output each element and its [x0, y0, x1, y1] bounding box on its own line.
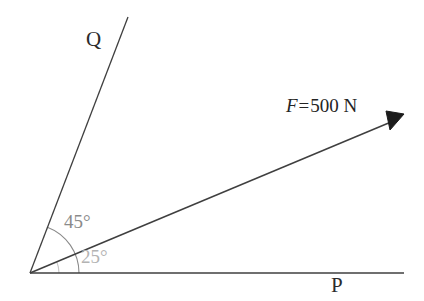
angle-label-45: 45°: [64, 212, 91, 231]
force-vector-diagram: Q P F=500 N 45° 25°: [0, 0, 424, 301]
force-magnitude-value: 500 N: [310, 95, 357, 116]
force-symbol: F: [286, 95, 298, 116]
diagram-canvas: [0, 0, 424, 301]
p-axis-label: P: [331, 275, 343, 296]
q-axis-label: Q: [86, 29, 101, 50]
force-vector-arrowhead-icon: [386, 111, 404, 130]
q-axis-line: [30, 17, 128, 273]
angle-label-25: 25°: [81, 247, 108, 266]
angle-arc-25: [57, 262, 59, 273]
force-equals-sign: =: [298, 95, 311, 116]
angle-arc-45: [47, 227, 79, 273]
force-vector-label: F=500 N: [286, 96, 357, 115]
